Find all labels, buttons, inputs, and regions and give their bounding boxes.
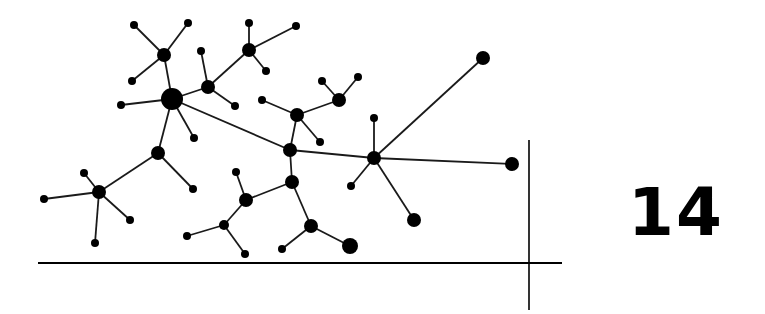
node-H [332, 93, 346, 107]
node-e1 [189, 185, 197, 193]
node-b2 [184, 19, 192, 27]
node-f4 [91, 239, 99, 247]
edge [374, 158, 414, 220]
edge [292, 182, 311, 226]
edge [290, 150, 374, 158]
edge [208, 50, 249, 87]
edge [99, 153, 158, 192]
edge [374, 158, 512, 164]
node-f2 [80, 169, 88, 177]
node-c2 [231, 102, 239, 110]
node-l1 [232, 168, 240, 176]
node-j3 [505, 157, 519, 171]
node-a2 [190, 134, 198, 142]
node-B [157, 48, 171, 62]
node-n2 [342, 238, 358, 254]
node-N [304, 219, 318, 233]
node-I [283, 143, 297, 157]
node-E [151, 146, 165, 160]
edge [95, 192, 99, 243]
node-f1 [40, 195, 48, 203]
node-c1 [197, 47, 205, 55]
node-m2 [241, 250, 249, 258]
edge [172, 99, 290, 150]
node-f3 [126, 216, 134, 224]
edge [374, 58, 483, 158]
node-G [290, 108, 304, 122]
node-L [239, 193, 253, 207]
network-edges [44, 23, 512, 254]
node-A [161, 88, 183, 110]
node-d1 [245, 19, 253, 27]
node-K [285, 175, 299, 189]
network-diagram [0, 0, 765, 314]
edge [44, 192, 99, 199]
node-F [92, 185, 106, 199]
node-C [201, 80, 215, 94]
node-n1 [278, 245, 286, 253]
edge [187, 225, 224, 236]
node-j5 [407, 213, 421, 227]
node-m1 [183, 232, 191, 240]
node-J [367, 151, 381, 165]
node-h2 [354, 73, 362, 81]
edge [158, 153, 193, 189]
node-a1 [117, 101, 125, 109]
axis-lines [38, 140, 562, 310]
edge [246, 182, 292, 200]
node-h1 [318, 77, 326, 85]
node-M [219, 220, 229, 230]
node-D [242, 43, 256, 57]
node-g1 [258, 96, 266, 104]
node-j4 [347, 182, 355, 190]
node-j2 [476, 51, 490, 65]
edge [249, 26, 296, 50]
node-d2 [292, 22, 300, 30]
node-b3 [128, 77, 136, 85]
network-nodes [40, 19, 519, 258]
edge [224, 225, 245, 254]
node-b1 [130, 21, 138, 29]
node-g2 [316, 138, 324, 146]
node-d3 [262, 67, 270, 75]
figure-number-label: 14 [628, 180, 724, 246]
node-j1 [370, 114, 378, 122]
